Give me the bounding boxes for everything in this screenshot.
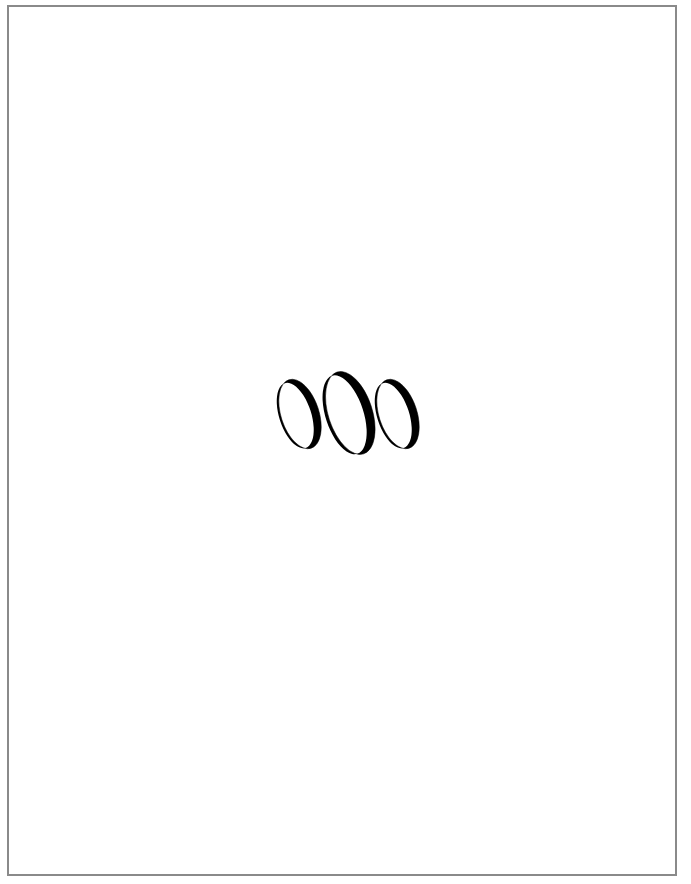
three-crescent-rings-icon bbox=[270, 362, 430, 464]
left-crescent-icon bbox=[270, 374, 329, 455]
middle-crescent-icon bbox=[313, 365, 384, 461]
graphic-description: Three calligraphic crescent ellipses bbox=[9, 7, 10, 8]
right-crescent-icon bbox=[367, 374, 427, 455]
